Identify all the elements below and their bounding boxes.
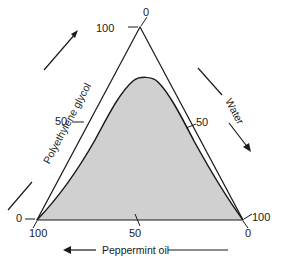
tick-label-bottom-50: 50 bbox=[129, 228, 141, 239]
tick-label-right-50: 50 bbox=[196, 117, 208, 128]
two-phase-region-fill bbox=[37, 77, 243, 220]
peppermint-oil-axis-arrow bbox=[63, 246, 96, 254]
tick-label-apex-left: 100 bbox=[96, 23, 114, 34]
ternary-diagram-canvas bbox=[0, 0, 291, 265]
water-axis-arrow bbox=[229, 123, 251, 152]
tick-label-apex-right: 0 bbox=[143, 7, 149, 18]
polyethylene-glycol-axis-arrow bbox=[44, 30, 78, 70]
tick-label-bottom-100: 100 bbox=[29, 228, 47, 239]
tick-label-left-0: 0 bbox=[16, 213, 22, 224]
tick-apex-right bbox=[141, 17, 147, 26]
tick-right-100 bbox=[244, 214, 252, 219]
tick-right-50 bbox=[186, 124, 196, 128]
polyethylene-glycol-axis-tail-line bbox=[8, 182, 32, 210]
ternary-phase-diagram-figure: 100 0 50 0 100 50 0 100 50 Polyethylene … bbox=[0, 0, 291, 265]
axis-title-peppermint-oil: Peppermint oil bbox=[102, 245, 169, 256]
tick-label-bottom-0: 0 bbox=[245, 228, 251, 239]
tick-label-right-100: 100 bbox=[252, 212, 270, 223]
water-axis-lead-line bbox=[198, 68, 222, 95]
